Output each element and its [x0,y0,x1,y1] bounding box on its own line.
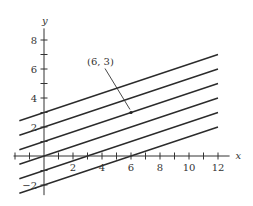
y-tick-label: 2 [31,122,37,133]
series-line [19,98,218,164]
y-tick-label: 8 [31,35,37,46]
annotation-point [129,111,132,114]
y-tick-label: 4 [31,93,37,104]
y-tick-label: −2 [22,180,37,191]
series-line [19,127,218,193]
y-axis-label: y [41,15,48,26]
x-tick-label: 10 [183,162,196,173]
series-line [19,69,218,135]
annotation-arrow [105,69,130,110]
chart: 246810128642−2 x y (6, 3) [0,0,253,206]
x-tick-label: 2 [70,162,76,173]
x-tick-label: 4 [99,162,105,173]
x-tick-label: 6 [128,162,134,173]
x-tick-label: 12 [212,162,225,173]
series-line [19,84,218,150]
y-tick-label: 6 [31,64,37,75]
annotation-label: (6, 3) [87,56,114,67]
x-tick-label: 8 [157,162,163,173]
x-axis-label: x [236,150,242,161]
series-line [19,55,218,121]
